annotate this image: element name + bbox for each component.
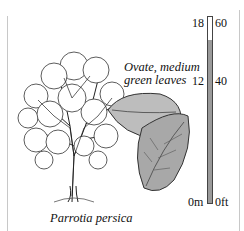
leaf-caption: Ovate, medium green leaves bbox=[124, 61, 200, 87]
right-divider bbox=[239, 10, 240, 231]
scale-label-max-m: 18 bbox=[192, 17, 204, 29]
height-scale-fill bbox=[208, 40, 212, 203]
scale-label-min-m: 0m bbox=[188, 196, 203, 208]
leaf-caption-line2: green leaves bbox=[124, 74, 200, 87]
scale-label-mid-ft: 40 bbox=[215, 75, 227, 87]
species-label: Parrotia persica bbox=[50, 212, 133, 225]
scale-label-min-ft: 0ft bbox=[215, 196, 228, 208]
scale-label-mid-m: 12 bbox=[192, 75, 204, 87]
height-scale-bar bbox=[207, 16, 213, 204]
leaf-illustration bbox=[102, 88, 192, 198]
scale-label-max-ft: 60 bbox=[215, 17, 227, 29]
left-divider bbox=[7, 16, 8, 231]
